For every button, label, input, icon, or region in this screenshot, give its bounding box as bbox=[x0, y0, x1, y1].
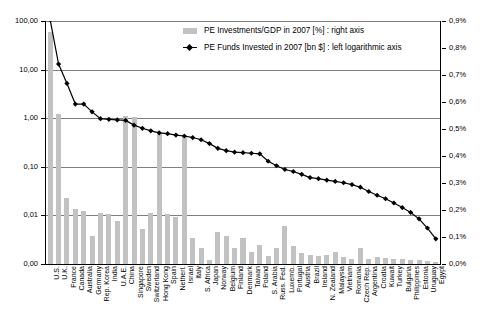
x-axis-tick-label: France bbox=[70, 266, 77, 288]
data-point-marker bbox=[299, 172, 304, 177]
left-axis-tick-mark bbox=[41, 118, 45, 119]
left-axis-tick-label: 0,00 bbox=[23, 260, 38, 268]
data-point-marker bbox=[64, 81, 69, 86]
data-point-marker bbox=[190, 135, 195, 140]
right-axis-tick-mark bbox=[442, 102, 446, 103]
data-point-marker bbox=[198, 137, 203, 142]
right-axis-tick-mark bbox=[442, 210, 446, 211]
x-axis-tick-label: Hong Kong bbox=[162, 266, 169, 301]
data-point-marker bbox=[358, 185, 363, 190]
x-axis-tick-label: Malaysia bbox=[338, 266, 345, 294]
bar-swatch-icon bbox=[183, 28, 197, 34]
x-axis-tick-label: U.K. bbox=[61, 266, 68, 280]
data-point-marker bbox=[383, 196, 388, 201]
legend-label-bars: PE Investments/GDP in 2007 [%] : right a… bbox=[204, 27, 364, 36]
right-axis-tick-label: 0,6% bbox=[449, 98, 466, 106]
data-point-marker bbox=[400, 205, 405, 210]
x-axis-tick-label: Japan bbox=[212, 266, 219, 285]
data-point-marker bbox=[366, 189, 371, 194]
x-axis-tick-label: Spain bbox=[170, 266, 177, 284]
legend-item-line: PE Funds Invested in 2007 [bn $] : left … bbox=[183, 44, 402, 53]
x-axis-tick-label: Croatia bbox=[380, 266, 387, 289]
data-point-marker bbox=[224, 148, 229, 153]
right-axis-tick-label: 0,4% bbox=[449, 152, 466, 160]
x-axis-tick-label: Kuwait bbox=[388, 266, 395, 287]
data-point-marker bbox=[131, 123, 136, 128]
x-axis-tick-label: Italy bbox=[195, 266, 202, 279]
right-axis-tick-label: 0,1% bbox=[449, 233, 466, 241]
left-axis-tick-mark bbox=[41, 21, 45, 22]
left-axis-tick-mark bbox=[41, 167, 45, 168]
data-point-marker bbox=[56, 61, 61, 66]
right-axis-tick-label: 0,7% bbox=[449, 71, 466, 79]
x-axis-labels: U.S.U.K.FranceCanadaAustraliaGermanyRep.… bbox=[46, 266, 440, 335]
right-axis-tick-mark bbox=[442, 183, 446, 184]
x-axis-tick-label: Denmark bbox=[246, 266, 253, 294]
x-axis-tick-label: Finland bbox=[237, 266, 244, 289]
x-axis-tick-label: Ireland bbox=[321, 266, 328, 287]
right-axis-tick-mark bbox=[442, 75, 446, 76]
data-point-marker bbox=[324, 178, 329, 183]
data-point-marker bbox=[349, 182, 354, 187]
left-axis-tick-label: 10,00 bbox=[19, 66, 38, 74]
x-axis-tick-label: Singapore bbox=[137, 266, 144, 298]
pe-investments-chart: 100,0010,001,000,100,010,00 0,9%0,8%0,7%… bbox=[0, 0, 491, 335]
right-axis-tick-mark bbox=[442, 264, 446, 265]
x-axis-tick-label: Australia bbox=[86, 266, 93, 293]
left-axis-tick-mark bbox=[41, 70, 45, 71]
right-axis-tick-mark bbox=[442, 21, 446, 22]
right-axis-tick-mark bbox=[442, 156, 446, 157]
x-axis-tick-label: India bbox=[111, 266, 118, 281]
x-axis-tick-label: U.S. bbox=[53, 266, 60, 280]
x-axis-tick-label: S. Africa bbox=[204, 266, 211, 292]
data-point-marker bbox=[333, 179, 338, 184]
x-axis-tick-label: Belgium bbox=[229, 266, 236, 291]
data-point-marker bbox=[341, 180, 346, 185]
left-axis-tick-label: 100,00 bbox=[15, 17, 38, 25]
x-axis-tick-label: Rep. Korea bbox=[103, 266, 110, 301]
x-axis-tick-label: Russ. Fed. bbox=[279, 266, 286, 300]
right-axis-tick-label: 0,5% bbox=[449, 125, 466, 133]
x-axis-tick-label: N. Zealand bbox=[329, 266, 336, 300]
right-axis-tick-label: 0,0% bbox=[449, 260, 466, 268]
data-point-marker bbox=[232, 150, 237, 155]
legend-label-line: PE Funds Invested in 2007 [bn $] : left … bbox=[204, 44, 402, 53]
x-axis-tick-label: Norway bbox=[220, 266, 227, 290]
legend-item-bars: PE Investments/GDP in 2007 [%] : right a… bbox=[183, 27, 402, 36]
legend: PE Investments/GDP in 2007 [%] : right a… bbox=[183, 27, 402, 60]
x-axis-tick-label: Portugal bbox=[296, 266, 303, 292]
data-point-marker bbox=[115, 117, 120, 122]
data-point-marker bbox=[106, 117, 111, 122]
x-axis-tick-label: Israel bbox=[187, 266, 194, 283]
right-axis-tick-mark bbox=[442, 129, 446, 130]
data-point-marker bbox=[240, 150, 245, 155]
x-axis-tick-label: Bulgaria bbox=[405, 266, 412, 292]
data-point-marker bbox=[207, 141, 212, 146]
data-point-marker bbox=[173, 132, 178, 137]
data-point-marker bbox=[140, 126, 145, 131]
data-point-marker bbox=[215, 146, 220, 151]
left-axis-tick-label: 1,00 bbox=[23, 114, 38, 122]
right-axis-tick-mark bbox=[442, 237, 446, 238]
x-axis-tick-label: Philippines bbox=[413, 266, 420, 300]
x-axis-tick-label: China bbox=[128, 266, 135, 284]
right-axis-tick-label: 0,9% bbox=[449, 17, 466, 25]
left-axis-tick-label: 0,01 bbox=[23, 211, 38, 219]
x-axis-tick-label: Estonia bbox=[422, 266, 429, 289]
x-axis-tick-label: Czech Rep. bbox=[363, 266, 370, 303]
data-point-marker bbox=[73, 102, 78, 107]
right-axis-tick-label: 0,3% bbox=[449, 179, 466, 187]
data-point-marker bbox=[157, 130, 162, 135]
x-axis-tick-label: Luxemb. bbox=[288, 266, 295, 293]
data-point-marker bbox=[48, 21, 53, 23]
x-axis-tick-label: S. Arabia bbox=[271, 266, 278, 294]
x-axis-tick-label: Turkey bbox=[396, 266, 403, 287]
data-point-marker bbox=[123, 118, 128, 123]
x-axis-tick-label: Romania bbox=[355, 266, 362, 294]
x-axis-tick-label: U.A.E. bbox=[120, 266, 127, 286]
data-point-marker bbox=[316, 176, 321, 181]
x-axis-tick-label: Netherl. bbox=[179, 266, 186, 291]
data-point-marker bbox=[307, 175, 312, 180]
right-axis-tick-mark bbox=[442, 48, 446, 49]
x-axis-tick-label: Uruguay bbox=[430, 266, 437, 292]
